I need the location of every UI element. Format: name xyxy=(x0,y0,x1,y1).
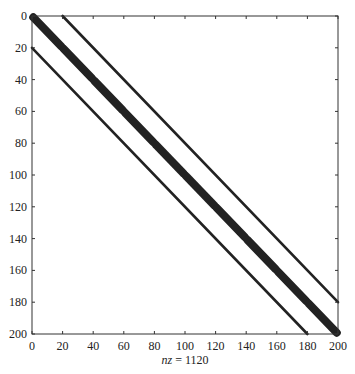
y-tick-label: 120 xyxy=(9,200,27,214)
upper-diagonal-band xyxy=(63,16,338,302)
main-diagonal-block-band-band xyxy=(33,17,337,332)
x-tick-label: 60 xyxy=(118,339,130,353)
x-tick-label: 0 xyxy=(29,339,35,353)
x-tick-label: 80 xyxy=(148,339,160,353)
x-tick-label: 160 xyxy=(268,339,286,353)
x-tick-label: 140 xyxy=(237,339,255,353)
x-tick-label: 200 xyxy=(329,339,347,353)
y-tick-label: 140 xyxy=(9,232,27,246)
y-tick-label: 40 xyxy=(15,73,27,87)
x-tick-label: 120 xyxy=(207,339,225,353)
y-tick-label: 0 xyxy=(21,9,27,23)
y-tick-label: 100 xyxy=(9,168,27,182)
x-tick-label: 180 xyxy=(298,339,316,353)
y-tick-label: 80 xyxy=(15,136,27,150)
y-tick-label: 60 xyxy=(15,104,27,118)
x-tick-label: 20 xyxy=(57,339,69,353)
x-axis-label: nz = 1120 xyxy=(162,353,209,367)
x-tick-label: 100 xyxy=(176,339,194,353)
y-tick-label: 20 xyxy=(15,41,27,55)
y-tick-label: 160 xyxy=(9,263,27,277)
lower-diagonal-band xyxy=(32,48,307,334)
y-axis: 020406080100120140160180200 xyxy=(9,9,338,341)
x-tick-label: 40 xyxy=(87,339,99,353)
plot-area xyxy=(32,16,338,334)
y-tick-label: 180 xyxy=(9,295,27,309)
y-tick-label: 200 xyxy=(9,327,27,341)
spy-plot: 020406080100120140160180200 020406080100… xyxy=(0,0,355,374)
